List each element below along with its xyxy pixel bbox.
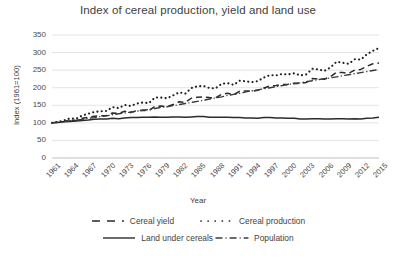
chart-legend: Cereal yield Cereal production Land unde… <box>0 212 396 246</box>
legend-label-population: Population <box>254 233 294 243</box>
cereal-index-chart: Index of cereal production, yield and la… <box>0 0 396 269</box>
legend-swatch-dashdot-icon <box>215 234 249 242</box>
legend-item-cereal-yield: Cereal yield <box>91 216 174 226</box>
legend-label-land-under-cereals: Land under cereals <box>141 233 213 243</box>
legend-item-cereal-production: Cereal production <box>200 216 305 226</box>
legend-label-cereal-production: Cereal production <box>239 216 305 226</box>
legend-swatch-solid-icon <box>102 234 136 242</box>
legend-swatch-dashed-icon <box>91 217 125 225</box>
legend-item-land-under-cereals: Land under cereals <box>102 233 213 243</box>
x-axis-title: Year <box>0 196 396 205</box>
legend-item-population: Population <box>215 233 294 243</box>
legend-swatch-dotted-icon <box>200 217 234 225</box>
legend-label-cereal-yield: Cereal yield <box>130 216 174 226</box>
